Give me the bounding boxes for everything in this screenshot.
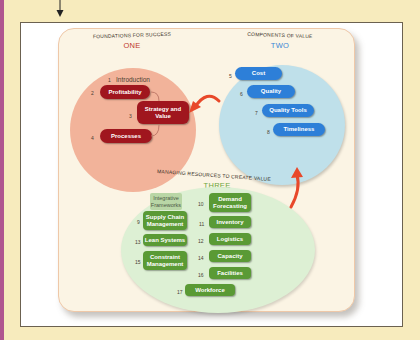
left-color-strip <box>0 0 4 340</box>
diagram-panel: Foundations for Success ONE 1 Introducti… <box>58 28 355 312</box>
arrow-three-to-two-head-icon <box>291 167 303 178</box>
connector-arrows <box>59 29 356 313</box>
arrow-three-to-two-icon <box>291 175 298 207</box>
figure-frame: Foundations for Success ONE 1 Introducti… <box>20 22 403 327</box>
down-arrow-icon <box>55 0 65 18</box>
